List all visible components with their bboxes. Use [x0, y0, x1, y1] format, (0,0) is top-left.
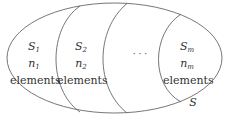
subset-m-count-sub: m [187, 63, 194, 71]
subset-m-sub: m [187, 46, 194, 54]
subset-2-name: S [75, 40, 83, 53]
ellipsis-label: · · · [120, 48, 160, 61]
subset-1-text: elements [10, 74, 58, 87]
subset-m-label: Sm nm elements [163, 40, 211, 87]
subset-2-sub: 2 [83, 46, 87, 54]
subset-1-sub: 1 [36, 46, 40, 54]
subset-m-text: elements [163, 74, 211, 87]
subset-2-count-sub: 2 [82, 63, 86, 71]
outer-set-label: S [186, 96, 200, 109]
subset-1-count-sub: 1 [35, 63, 39, 71]
subset-2-label: S2 n2 elements [57, 40, 105, 87]
subset-1-name: S [28, 40, 36, 53]
outer-set-name: S [189, 96, 197, 109]
subset-2-text: elements [57, 74, 105, 87]
subset-1-label: S1 n1 elements [10, 40, 58, 87]
